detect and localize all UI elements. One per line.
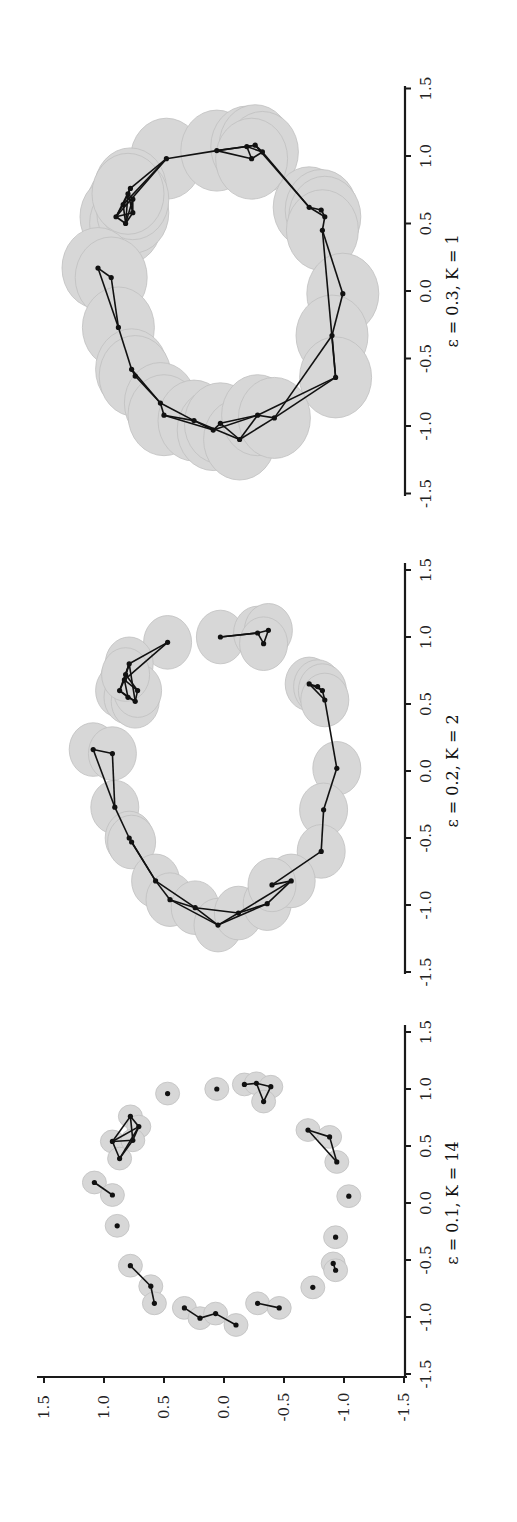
data-point — [148, 1284, 153, 1289]
x-tick-label: 0.0 — [417, 279, 435, 303]
x-tick-label: -0.5 — [417, 824, 435, 853]
data-point — [152, 1301, 157, 1306]
data-point — [320, 228, 325, 233]
x-axis-panel-1: -1.5-1.0-0.50.00.51.01.5 — [405, 558, 435, 986]
data-point — [334, 1159, 339, 1164]
data-point — [133, 373, 138, 378]
data-point — [165, 640, 170, 645]
y-tick-label: -1.5 — [395, 1393, 413, 1422]
data-point — [112, 805, 117, 810]
data-point — [327, 1134, 332, 1139]
data-point — [218, 421, 223, 426]
data-point — [182, 1305, 187, 1310]
data-point — [322, 214, 327, 219]
data-point — [115, 1223, 120, 1228]
data-point — [307, 681, 312, 686]
data-point — [197, 1316, 202, 1321]
data-point — [334, 766, 339, 771]
y-tick-label: 1.5 — [35, 1395, 53, 1419]
data-point — [346, 1194, 351, 1199]
data-point — [331, 1261, 336, 1266]
data-point — [128, 1114, 133, 1119]
panel-1: -1.5-1.0-0.50.00.51.01.5 — [69, 558, 435, 986]
x-tick-label: 1.5 — [417, 1020, 435, 1044]
data-point — [128, 186, 133, 191]
data-point — [215, 923, 220, 928]
data-point — [218, 634, 223, 639]
data-point — [340, 291, 345, 296]
data-point — [253, 143, 258, 148]
epsilon-balls — [82, 1072, 360, 1336]
data-point — [260, 149, 265, 154]
data-point — [110, 1192, 115, 1197]
x-tick-label: 0.0 — [417, 1191, 435, 1215]
data-point — [233, 1322, 238, 1327]
data-point — [128, 1263, 133, 1268]
y-axis: -1.5-1.0-0.50.00.51.01.5 — [35, 1377, 413, 1421]
y-tick-label: 1.0 — [95, 1395, 113, 1419]
data-point — [116, 325, 121, 330]
y-tick-label: -0.5 — [275, 1393, 293, 1422]
data-point — [307, 205, 312, 210]
x-tick-label: 1.0 — [417, 625, 435, 649]
data-point — [310, 1285, 315, 1290]
panels: -1.5-1.0-0.50.00.51.01.5-1.5-1.0-0.50.00… — [62, 77, 435, 1389]
x-tick-label: -1.0 — [417, 412, 435, 441]
data-point — [255, 1301, 260, 1306]
data-point — [268, 1084, 273, 1089]
data-point — [110, 751, 115, 756]
data-point — [244, 144, 249, 149]
data-point — [130, 1138, 135, 1143]
data-point — [167, 897, 172, 902]
data-point — [117, 688, 122, 693]
data-point — [322, 697, 327, 702]
data-point — [213, 1311, 218, 1316]
data-point — [110, 1139, 115, 1144]
data-point — [242, 1082, 247, 1087]
data-point — [121, 202, 126, 207]
data-point — [319, 207, 324, 212]
data-point — [320, 688, 325, 693]
data-point — [191, 418, 196, 423]
y-tick-label: 0.5 — [155, 1395, 173, 1419]
data-point — [113, 214, 118, 219]
x-tick-label: -0.5 — [417, 344, 435, 373]
data-point — [91, 747, 96, 752]
data-point — [214, 1086, 219, 1091]
data-point — [122, 677, 127, 682]
y-tick-label: -1.0 — [335, 1393, 353, 1422]
x-tick-label: 0.0 — [417, 759, 435, 783]
data-point — [130, 210, 135, 215]
data-point — [161, 413, 166, 418]
data-point — [272, 415, 277, 420]
data-point — [135, 688, 140, 693]
data-point — [319, 849, 324, 854]
data-point — [333, 1235, 338, 1240]
x-tick-label: 1.0 — [417, 1077, 435, 1101]
data-point — [236, 910, 241, 915]
panel-title-eps-0.2: ε = 0.2, K = 2 — [443, 714, 462, 827]
data-point — [289, 878, 294, 883]
graph-edges — [94, 1083, 336, 1325]
panel-title-eps-0.1: ε = 0.1, K = 14 — [443, 1141, 462, 1264]
x-tick-label: 0.5 — [417, 212, 435, 236]
data-point — [117, 1156, 122, 1161]
data-point — [261, 1099, 266, 1104]
data-point — [109, 275, 114, 280]
data-point — [249, 156, 254, 161]
data-point — [214, 148, 219, 153]
panel-0: -1.5-1.0-0.50.00.51.01.5 — [82, 1020, 435, 1388]
x-tick-label: 1.5 — [417, 77, 435, 101]
data-point — [133, 699, 138, 704]
x-tick-label: -1.5 — [417, 958, 435, 987]
data-point — [130, 197, 135, 202]
data-point — [136, 1124, 141, 1129]
data-point — [315, 684, 320, 689]
data-point — [211, 427, 216, 432]
data-point — [321, 807, 326, 812]
data-point — [123, 672, 128, 677]
x-tick-label: 0.5 — [417, 1134, 435, 1158]
x-tick-label: -0.5 — [417, 1246, 435, 1275]
data-point — [269, 882, 274, 887]
data-point — [261, 641, 266, 646]
